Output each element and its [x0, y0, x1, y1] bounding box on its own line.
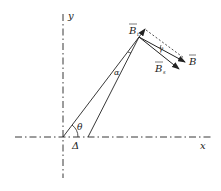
vector-diagram: y x θ Δ α γ B B t B s	[0, 0, 221, 191]
vector-Bt	[139, 29, 145, 37]
label-Bs: B s	[154, 62, 166, 75]
gamma-label: γ	[159, 45, 164, 53]
label-B: B	[188, 55, 196, 67]
line-origin-to-apex	[63, 37, 139, 137]
delta-label: Δ	[71, 140, 79, 151]
x-axis-label: x	[200, 140, 206, 151]
svg-text:B: B	[128, 25, 136, 36]
svg-text:B: B	[154, 63, 162, 74]
label-Bt: B t	[128, 24, 140, 37]
theta-label: θ	[77, 122, 83, 132]
line-delta-to-apex	[88, 37, 139, 137]
svg-text:s: s	[163, 69, 166, 75]
y-axis-label: y	[67, 10, 74, 21]
alpha-label: α	[114, 68, 120, 77]
svg-text:B: B	[188, 56, 196, 67]
alpha-arc	[128, 52, 131, 53]
